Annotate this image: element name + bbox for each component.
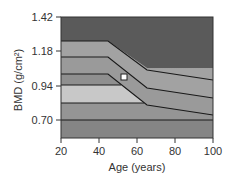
bmd-chart: 1.42 1.18 0.94 0.70 20 40 60 80 100 Age … (0, 0, 235, 186)
x-axis-label: Age (years) (109, 161, 166, 173)
x-tick-label: 20 (55, 145, 67, 157)
y-tick-label: 1.18 (32, 45, 53, 57)
x-tick-label: 60 (131, 145, 143, 157)
y-tick-label: 0.94 (32, 80, 53, 92)
patient-point-marker (121, 74, 127, 80)
y-tick-label: 0.70 (32, 114, 53, 126)
y-tick-label: 1.42 (32, 11, 53, 23)
x-tick-label: 40 (93, 145, 105, 157)
y-axis-label: BMD (g/cm²) (12, 49, 24, 111)
x-tick-label: 100 (204, 145, 222, 157)
x-tick-label: 80 (169, 145, 181, 157)
band-bottom (61, 120, 213, 138)
